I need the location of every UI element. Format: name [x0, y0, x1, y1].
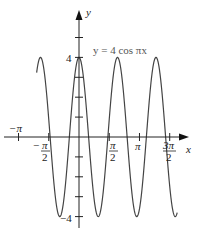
- x-axis-arrow-icon: [179, 134, 189, 141]
- chart-svg: y x y = 4 cos πx 4 −4 −π − π 2 π 2 π 3π …: [0, 0, 197, 230]
- y-tick-label-4: 4: [66, 52, 72, 64]
- svg-text:2: 2: [110, 151, 116, 163]
- x-tick-label-pi-half: π 2: [109, 139, 118, 163]
- cosine-chart: y x y = 4 cos πx 4 −4 −π − π 2 π 2 π 3π …: [0, 0, 197, 230]
- x-tick-label-pi: π: [135, 140, 141, 152]
- y-axis-arrow-icon: [76, 10, 83, 20]
- y-tick-label-neg4: −4: [60, 212, 72, 224]
- svg-text:2: 2: [166, 151, 172, 163]
- x-axis-label: x: [185, 143, 191, 155]
- svg-text:−: −: [33, 139, 39, 151]
- svg-text:3π: 3π: [162, 139, 175, 151]
- svg-text:2: 2: [42, 151, 48, 163]
- svg-text:π: π: [42, 139, 48, 151]
- svg-text:π: π: [110, 139, 116, 151]
- equation-label: y = 4 cos πx: [93, 44, 147, 56]
- x-tick-label-three-pi-half: 3π 2: [162, 139, 176, 163]
- y-axis-label: y: [85, 6, 91, 18]
- x-tick-label-neg-pi: −π: [9, 122, 22, 134]
- x-tick-label-neg-pi-half: − π 2: [33, 139, 50, 163]
